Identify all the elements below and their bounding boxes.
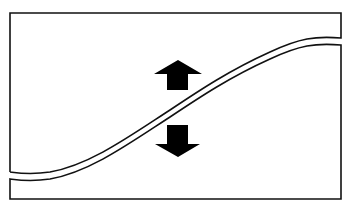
arrow-up-icon [154,60,202,90]
diagram [0,0,354,202]
arrow-down-icon [155,125,200,157]
